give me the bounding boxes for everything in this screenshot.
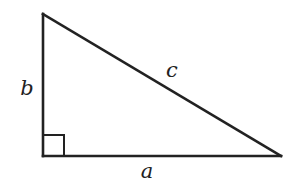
label-b: b <box>20 76 33 100</box>
label-c: c <box>166 58 178 82</box>
side-c-hypotenuse <box>43 14 281 156</box>
label-a: a <box>141 159 154 183</box>
right-triangle-diagram: b c a <box>0 0 296 189</box>
right-angle-marker <box>43 135 64 156</box>
